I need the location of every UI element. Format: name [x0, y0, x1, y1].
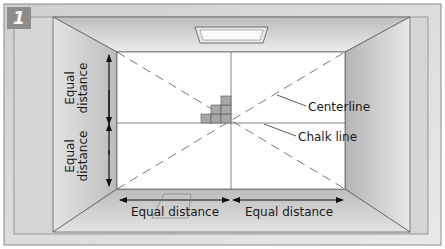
room-layout-diagram: Equal distance Equal distance Equal dist…: [0, 0, 445, 249]
diagram-canvas: Equal distance Equal distance Equal dist…: [0, 0, 445, 249]
step-number-badge: 1: [7, 7, 31, 29]
label-centerline: Centerline: [308, 100, 370, 114]
svg-text:Equal: Equal: [63, 139, 77, 173]
svg-text:distance: distance: [76, 63, 90, 114]
skylight-icon: [195, 27, 268, 43]
svg-text:Equal: Equal: [63, 71, 77, 105]
label-chalk-line: Chalk line: [298, 130, 357, 144]
label-equal-distance-bottom-right: Equal distance: [245, 205, 333, 219]
svg-text:distance: distance: [76, 131, 90, 182]
label-equal-distance-bottom-left: Equal distance: [131, 205, 219, 219]
